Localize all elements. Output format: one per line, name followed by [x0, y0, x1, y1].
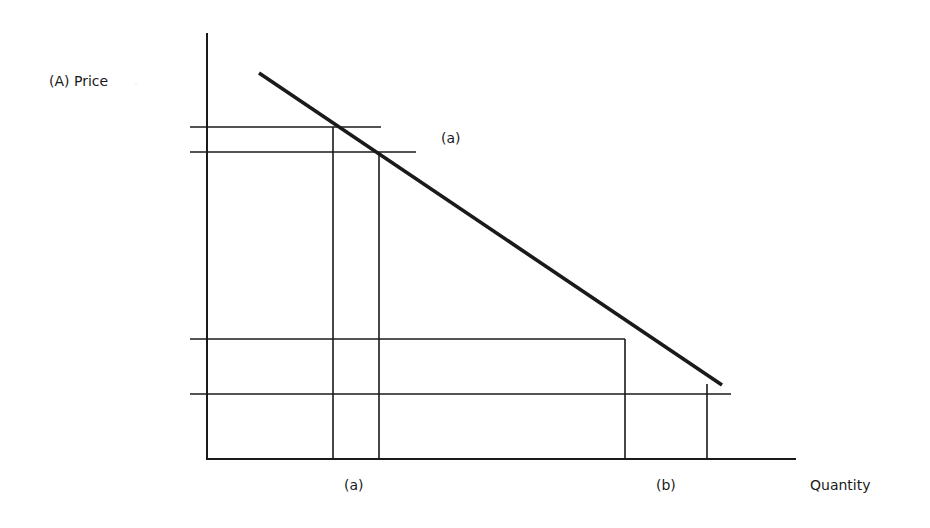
- curve-label-a: (a): [441, 131, 461, 145]
- x-marker-b: (b): [656, 478, 676, 492]
- y-axis-label: (A) Price: [49, 74, 108, 88]
- x-axis-label: Quantity: [810, 478, 871, 492]
- demand-diagram: [0, 0, 930, 528]
- x-marker-a: (a): [344, 478, 364, 492]
- y-axis-label-dot: .: [135, 80, 137, 86]
